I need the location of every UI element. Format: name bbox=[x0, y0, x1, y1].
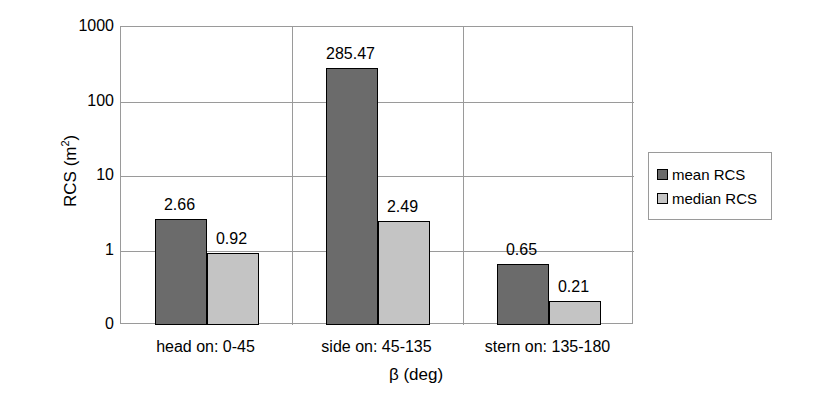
x-axis-title: β (deg) bbox=[0, 365, 832, 385]
y-axis-title-close: ) bbox=[61, 135, 80, 141]
category-divider-2 bbox=[463, 27, 464, 325]
legend-swatch-mean-icon bbox=[657, 169, 668, 180]
gridline-10 bbox=[121, 176, 634, 177]
x-category-label-2: stern on: 135-180 bbox=[462, 338, 633, 356]
bar-value-label-mean-1: 285.47 bbox=[301, 46, 401, 62]
x-category-label-0: head on: 0-45 bbox=[120, 338, 291, 356]
bar-value-label-median-2: 0.21 bbox=[524, 279, 624, 295]
legend-label-median: median RCS bbox=[672, 191, 757, 206]
y-axis: RCS (m2) 10001001010 bbox=[52, 0, 114, 409]
chart-figure: RCS (m2) 10001001010 2.660.92285.472.490… bbox=[0, 0, 832, 409]
bar-median-1 bbox=[378, 221, 430, 325]
y-tick-label-0: 0 bbox=[62, 316, 114, 332]
legend: mean RCS median RCS bbox=[648, 152, 772, 220]
x-category-label-1: side on: 45-135 bbox=[291, 338, 462, 356]
bar-value-label-median-1: 2.49 bbox=[353, 199, 453, 215]
bar-median-0 bbox=[207, 253, 259, 325]
bar-value-label-mean-2: 0.65 bbox=[472, 242, 572, 258]
bar-value-label-median-0: 0.92 bbox=[182, 231, 282, 247]
y-axis-title-exponent: 2 bbox=[59, 140, 71, 146]
bar-median-2 bbox=[549, 301, 601, 325]
y-tick-label-100: 100 bbox=[62, 93, 114, 109]
gridline-100 bbox=[121, 102, 634, 103]
category-divider-1 bbox=[292, 27, 293, 325]
y-tick-label-1000: 1000 bbox=[62, 18, 114, 34]
legend-item-median: median RCS bbox=[657, 186, 763, 210]
y-tick-label-1: 1 bbox=[62, 242, 114, 258]
legend-item-mean: mean RCS bbox=[657, 162, 763, 186]
bar-value-label-mean-0: 2.66 bbox=[130, 197, 230, 213]
y-tick-label-10: 10 bbox=[62, 167, 114, 183]
legend-label-mean: mean RCS bbox=[672, 167, 745, 182]
legend-swatch-median-icon bbox=[657, 193, 668, 204]
bar-mean-1 bbox=[326, 68, 378, 325]
